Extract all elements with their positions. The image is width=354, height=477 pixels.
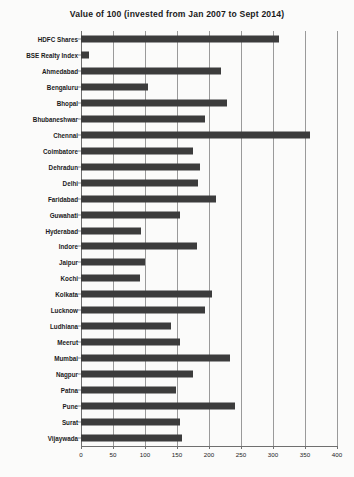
bar-row: Guwahati	[0, 207, 354, 223]
bar	[81, 323, 171, 330]
bar	[81, 51, 89, 58]
bar-row: HDFC Shares	[0, 31, 354, 47]
bar-row: Faridabad	[0, 191, 354, 207]
x-tick-label-150: 150	[172, 451, 182, 458]
category-label: Delhi	[63, 179, 78, 186]
category-label: Guwahati	[50, 211, 78, 218]
category-label: Vijaywada	[48, 435, 78, 442]
bar	[81, 163, 200, 170]
bar	[81, 371, 193, 378]
bar-row: Bhubaneshwar	[0, 111, 354, 127]
category-label: Pune	[63, 403, 78, 410]
bar-chart-figure: Value of 100 (invested from Jan 2007 to …	[0, 0, 354, 477]
bar-row: Pune	[0, 398, 354, 414]
bar	[81, 179, 198, 186]
category-label: Ahmedabad	[42, 67, 78, 74]
bar-row: BSE Realty Index	[0, 47, 354, 63]
bar	[81, 355, 230, 362]
x-tick-label-0: 0	[79, 451, 82, 458]
chart-title: Value of 100 (invested from Jan 2007 to …	[0, 9, 354, 19]
bar	[81, 211, 180, 218]
bar	[81, 403, 235, 410]
x-tick-mark-400	[337, 446, 338, 449]
category-label: Bhopal	[57, 99, 78, 106]
bar	[81, 275, 140, 282]
bar-row: Indore	[0, 239, 354, 255]
bar	[81, 419, 180, 426]
bar-row: Hyderabad	[0, 223, 354, 239]
x-tick-label-400: 400	[332, 451, 342, 458]
bar-row: Ludhiana	[0, 318, 354, 334]
bar-row: Ahmedabad	[0, 63, 354, 79]
x-tick-label-350: 350	[300, 451, 310, 458]
category-label: Chennai	[53, 131, 78, 138]
x-tick-label-100: 100	[140, 451, 150, 458]
bar-row: Meerut	[0, 334, 354, 350]
category-label: Meerut	[57, 339, 78, 346]
x-tick-mark-100	[145, 446, 146, 449]
category-label: Bhubaneshwar	[33, 115, 78, 122]
bar-row: Surat	[0, 414, 354, 430]
bar	[81, 83, 148, 90]
bar	[81, 339, 180, 346]
category-label: BSE Realty Index	[26, 51, 78, 58]
x-tick-mark-150	[177, 446, 178, 449]
bar-row: Kochi	[0, 270, 354, 286]
category-label: Kochi	[61, 275, 79, 282]
bar-row: Coimbatore	[0, 143, 354, 159]
bar	[81, 195, 216, 202]
x-tick-label-200: 200	[204, 451, 214, 458]
x-tick-mark-0	[81, 446, 82, 449]
x-tick-label-50: 50	[110, 451, 117, 458]
bar-row: Jaipur	[0, 254, 354, 270]
category-label: Kolkata	[55, 291, 78, 298]
x-tick-mark-300	[273, 446, 274, 449]
category-label: HDFC Shares	[38, 35, 78, 42]
bar-row: Chennai	[0, 127, 354, 143]
bar	[81, 243, 197, 250]
bar	[81, 115, 205, 122]
bar	[81, 387, 176, 394]
x-tick-mark-250	[241, 446, 242, 449]
category-label: Surat	[62, 419, 78, 426]
bar	[81, 67, 221, 74]
bar	[81, 227, 141, 234]
bar-row: Mumbai	[0, 350, 354, 366]
bar-row: Patna	[0, 382, 354, 398]
bar	[81, 35, 279, 42]
x-tick-mark-200	[209, 446, 210, 449]
bar-row: Vijaywada	[0, 430, 354, 446]
bar-row: Nagpur	[0, 366, 354, 382]
category-label: Patna	[61, 387, 78, 394]
bar-row: Lucknow	[0, 302, 354, 318]
category-label: Indore	[59, 243, 78, 250]
bar	[81, 131, 310, 138]
category-label: Ludhiana	[50, 323, 78, 330]
bar-row: Bengaluru	[0, 79, 354, 95]
bar	[81, 307, 205, 314]
category-label: Lucknow	[51, 307, 78, 314]
category-label: Coimbatore	[43, 147, 78, 154]
x-tick-label-300: 300	[268, 451, 278, 458]
x-tick-mark-50	[113, 446, 114, 449]
bar	[81, 435, 182, 442]
x-tick-label-250: 250	[236, 451, 246, 458]
bar	[81, 99, 227, 106]
bar-row: Bhopal	[0, 95, 354, 111]
category-label: Mumbai	[54, 355, 78, 362]
bar	[81, 147, 193, 154]
category-label: Dehradun	[49, 163, 78, 170]
x-tick-mark-350	[305, 446, 306, 449]
bar-row: Kolkata	[0, 286, 354, 302]
bar	[81, 291, 212, 298]
bar-row: Delhi	[0, 175, 354, 191]
category-label: Faridabad	[48, 195, 78, 202]
category-label: Jaipur	[59, 259, 78, 266]
category-label: Bengaluru	[47, 83, 78, 90]
bar-row: Dehradun	[0, 159, 354, 175]
category-label: Hyderabad	[45, 227, 78, 234]
category-label: Nagpur	[56, 371, 78, 378]
bar	[81, 259, 145, 266]
